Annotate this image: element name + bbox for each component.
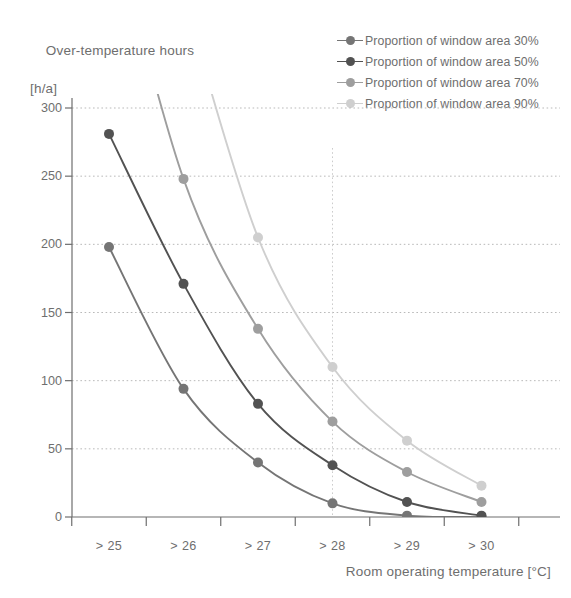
y-tick-label: 100	[20, 374, 62, 388]
chart-container: Over-temperature hours [h/a] Proportion …	[0, 0, 571, 598]
x-tick-label: > 28	[298, 539, 368, 553]
data-point[interactable]	[402, 511, 412, 521]
data-point[interactable]	[328, 460, 338, 470]
data-point[interactable]	[179, 384, 189, 394]
data-point[interactable]	[179, 279, 189, 289]
data-point[interactable]	[328, 362, 338, 372]
data-point[interactable]	[328, 498, 338, 508]
data-point[interactable]	[104, 242, 114, 252]
plot-area: 300250200150100500 > 25> 26> 27> 28> 29>…	[0, 0, 571, 598]
y-tick-label: 200	[20, 237, 62, 251]
y-tick-label: 150	[20, 306, 62, 320]
data-point[interactable]	[253, 457, 263, 467]
plot-svg	[0, 0, 571, 598]
data-point[interactable]	[402, 467, 412, 477]
x-tick-label: > 26	[149, 539, 219, 553]
y-tick-label: 300	[20, 101, 62, 115]
series-line-1	[109, 134, 482, 516]
data-point[interactable]	[402, 497, 412, 507]
series-line-2	[109, 0, 482, 502]
data-point[interactable]	[179, 174, 189, 184]
data-point[interactable]	[477, 481, 487, 491]
y-tick-label: 0	[20, 510, 62, 524]
data-point[interactable]	[402, 436, 412, 446]
x-tick-label: > 25	[74, 539, 144, 553]
data-point[interactable]	[253, 233, 263, 243]
data-point[interactable]	[477, 511, 487, 521]
y-tick-label: 50	[20, 442, 62, 456]
data-point[interactable]	[477, 497, 487, 507]
y-tick-label: 250	[20, 169, 62, 183]
data-point[interactable]	[328, 417, 338, 427]
data-point[interactable]	[104, 129, 114, 139]
x-tick-label: > 29	[372, 539, 442, 553]
x-tick-label: > 30	[447, 539, 517, 553]
data-point[interactable]	[253, 324, 263, 334]
x-axis-title: Room operating temperature [°C]	[346, 564, 551, 579]
data-point[interactable]	[253, 399, 263, 409]
x-tick-label: > 27	[223, 539, 293, 553]
